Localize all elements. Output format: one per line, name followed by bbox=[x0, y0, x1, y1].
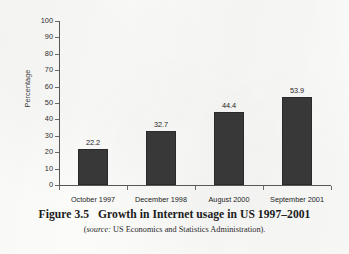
x-tick-mark bbox=[59, 186, 60, 190]
source-attribution: US Economics and Statistics Administrati… bbox=[111, 225, 265, 234]
y-tick-mark bbox=[55, 136, 59, 137]
y-tick-label: 40 bbox=[45, 114, 53, 123]
y-tick-mark bbox=[55, 54, 59, 55]
y-tick-mark bbox=[55, 103, 59, 104]
y-tick-mark bbox=[55, 70, 59, 71]
x-category-label: August 2000 bbox=[195, 195, 263, 204]
y-tick-mark bbox=[55, 37, 59, 38]
x-tick-mark bbox=[195, 186, 196, 190]
x-tick-mark bbox=[263, 186, 264, 190]
source-keyword: source: bbox=[86, 225, 111, 234]
bar bbox=[214, 112, 244, 185]
y-tick-mark bbox=[55, 87, 59, 88]
y-tick-label: 10 bbox=[45, 164, 53, 173]
y-tick-label: 70 bbox=[45, 65, 53, 74]
figure-title: Growth in Internet usage in US 1997–2001 bbox=[98, 208, 310, 221]
bar-value-label: 32.7 bbox=[137, 120, 185, 129]
y-tick-label: 60 bbox=[45, 82, 53, 91]
y-tick-label: 30 bbox=[45, 131, 53, 140]
y-axis-title: Percentage bbox=[23, 44, 32, 134]
bar-value-label: 22.2 bbox=[69, 138, 117, 147]
figure-page: Percentage 0102030405060708090100 22.2Oc… bbox=[0, 0, 349, 254]
x-category-label: September 2001 bbox=[263, 195, 331, 204]
bar bbox=[78, 149, 108, 185]
y-tick-label: 100 bbox=[41, 16, 53, 25]
figure-number: Figure 3.5 bbox=[39, 208, 90, 221]
y-tick-label: 50 bbox=[45, 98, 53, 107]
y-tick-mark bbox=[55, 21, 59, 22]
y-tick-label: 0 bbox=[49, 180, 53, 189]
figure-caption: Figure 3.5Growth in Internet usage in US… bbox=[0, 207, 349, 235]
x-tick-mark bbox=[127, 186, 128, 190]
bar bbox=[282, 97, 312, 185]
x-category-label: December 1998 bbox=[127, 195, 195, 204]
bar-value-label: 53.9 bbox=[273, 86, 321, 95]
bar bbox=[146, 131, 176, 185]
caption-source-line: (source: US Economics and Statistics Adm… bbox=[0, 224, 349, 235]
y-tick-label: 80 bbox=[45, 49, 53, 58]
y-tick-mark bbox=[55, 169, 59, 170]
caption-main-line: Figure 3.5Growth in Internet usage in US… bbox=[0, 207, 349, 222]
y-tick-mark bbox=[55, 152, 59, 153]
plot-area: 0102030405060708090100 22.2October 19973… bbox=[59, 21, 331, 185]
y-tick-mark bbox=[55, 119, 59, 120]
bar-chart: Percentage 0102030405060708090100 22.2Oc… bbox=[0, 0, 349, 206]
x-category-label: October 1997 bbox=[59, 195, 127, 204]
y-tick-label: 20 bbox=[45, 147, 53, 156]
bar-value-label: 44.4 bbox=[205, 101, 253, 110]
x-tick-mark bbox=[331, 186, 332, 190]
y-axis-line bbox=[59, 21, 60, 186]
y-tick-label: 90 bbox=[45, 32, 53, 41]
